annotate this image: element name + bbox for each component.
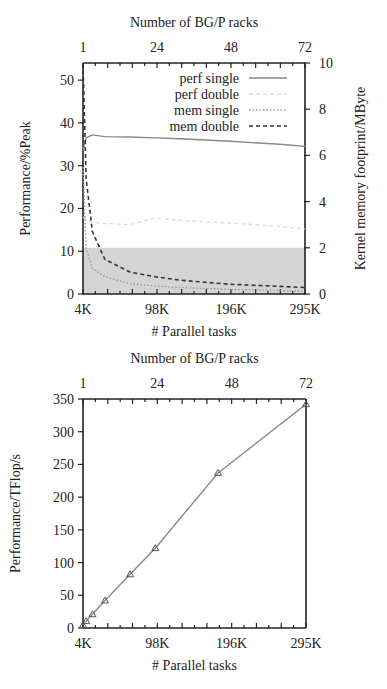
x-tick-label: 98K [145, 302, 169, 317]
y-tick-label: 10 [60, 244, 74, 259]
y2-axis-title: Kernel memory footprint/MByte [353, 87, 368, 271]
x2-tick-label: 1 [80, 40, 87, 55]
y2-tick-label: 2 [319, 241, 326, 256]
y-tick-label: 350 [53, 392, 74, 407]
x2-tick-label: 24 [150, 376, 164, 391]
legend-label: perf single [180, 71, 239, 86]
y-tick-label: 0 [67, 621, 74, 636]
y-axis-title: Performance/%Peak [18, 121, 33, 235]
y-tick-label: 200 [53, 490, 74, 505]
x2-axis-title: Number of BG/P racks [130, 15, 258, 30]
y2-tick-label: 8 [319, 102, 326, 117]
y-tick-label: 50 [60, 588, 74, 603]
y-tick-label: 20 [60, 201, 74, 216]
x-tick-label: 4K [74, 636, 91, 651]
y-tick-label: 300 [53, 425, 74, 440]
x2-tick-label: 1 [80, 376, 87, 391]
y-tick-label: 40 [60, 116, 74, 131]
x-axis-title: # Parallel tasks [152, 658, 237, 673]
legend-label: mem double [169, 119, 239, 134]
y-tick-label: 100 [53, 556, 74, 571]
y-tick-label: 50 [60, 73, 74, 88]
series-line-perf-double [83, 217, 305, 229]
x-tick-label: 4K [74, 302, 91, 317]
y-tick-label: 30 [60, 159, 74, 174]
x-tick-label: 196K [215, 302, 246, 317]
y-tick-label: 250 [53, 457, 74, 472]
x-tick-label: 295K [289, 302, 320, 317]
x2-tick-label: 48 [224, 40, 238, 55]
x-tick-label: 196K [216, 636, 247, 651]
series-line-perf-single [83, 135, 305, 151]
series-line-performance [83, 404, 306, 625]
y2-tick-label: 0 [319, 287, 326, 302]
chart-2: 4K98K196K295K124487205010015020025030035… [8, 351, 322, 673]
chart-1: 4K98K196K295K1244872010203040500246810# … [18, 15, 368, 339]
x2-tick-label: 72 [299, 376, 313, 391]
x2-axis-title: Number of BG/P racks [130, 351, 258, 366]
chart-figure: 4K98K196K295K1244872010203040500246810# … [0, 0, 387, 689]
y2-tick-label: 10 [319, 56, 333, 71]
x2-tick-label: 24 [150, 40, 164, 55]
x2-tick-label: 48 [225, 376, 239, 391]
legend-label: perf double [175, 87, 239, 102]
legend-label: mem single [174, 103, 239, 118]
x2-tick-label: 72 [298, 40, 312, 55]
y-axis-title: Performance/TFlop/s [8, 454, 23, 573]
y-tick-label: 150 [53, 523, 74, 538]
x-tick-label: 98K [145, 636, 169, 651]
y2-tick-label: 4 [319, 195, 326, 210]
y-tick-label: 0 [67, 287, 74, 302]
x-tick-label: 295K [290, 636, 321, 651]
x-axis-title: # Parallel tasks [152, 324, 237, 339]
y2-tick-label: 6 [319, 148, 326, 163]
shaded-region [83, 248, 305, 294]
